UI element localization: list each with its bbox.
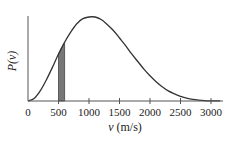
x-tick-label: 1000	[78, 106, 101, 118]
distribution-curve	[28, 17, 220, 101]
x-tick-label: 1500	[109, 106, 132, 118]
speed-distribution-chart: 050010001500200025003000 P(v) v (m/s)	[0, 0, 229, 147]
x-tick-label: 500	[50, 106, 67, 118]
y-axis-label: P(v)	[5, 51, 19, 73]
x-tick-label: 0	[25, 106, 31, 118]
x-tick-label: 2500	[170, 106, 193, 118]
x-tick-label: 2000	[139, 106, 162, 118]
x-tick-label: 3000	[200, 106, 223, 118]
x-axis-label: v (m/s)	[108, 120, 142, 134]
